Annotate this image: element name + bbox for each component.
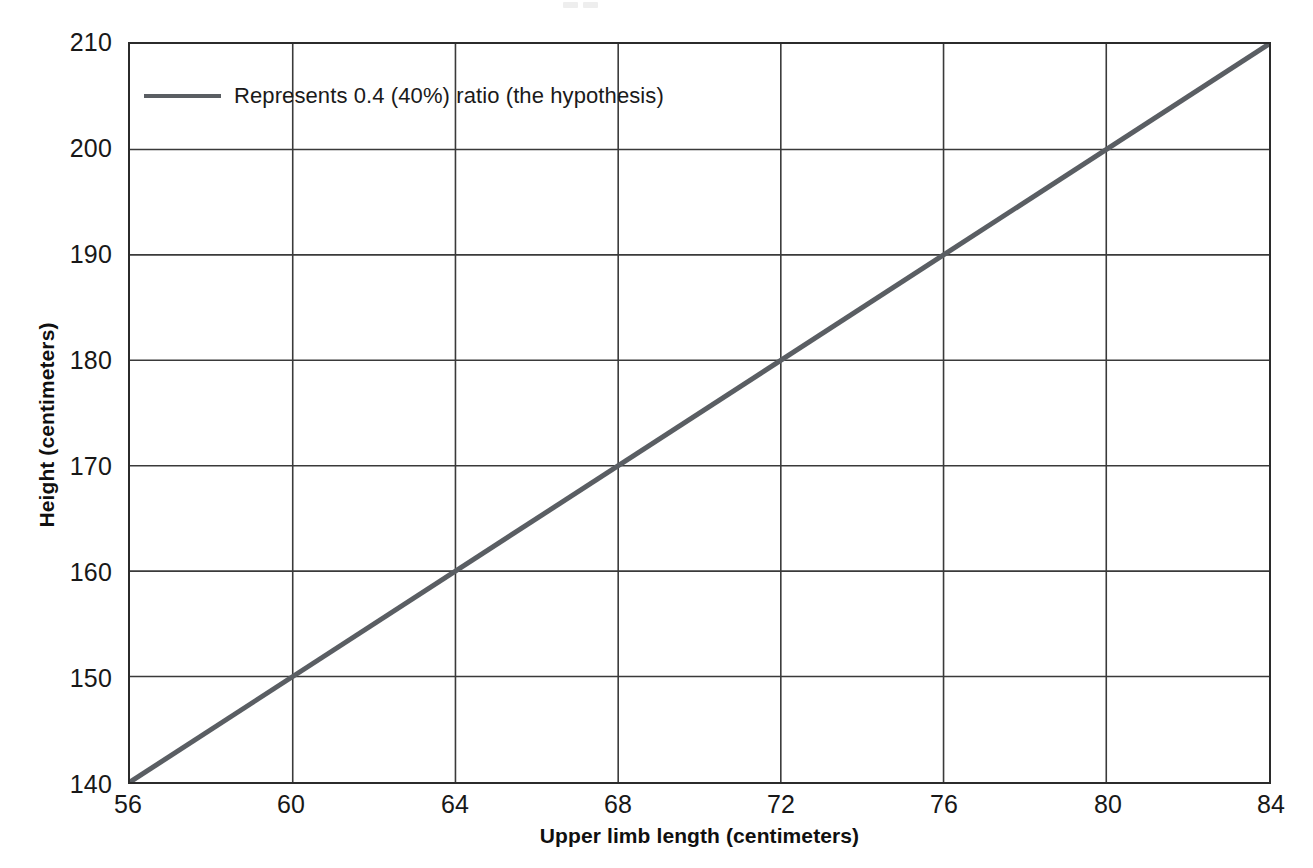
y-axis-title: Height (centimeters) bbox=[35, 295, 59, 555]
x-tick-72: 72 bbox=[767, 790, 795, 819]
x-axis-title: Upper limb length (centimeters) bbox=[128, 824, 1271, 848]
x-tick-56: 56 bbox=[114, 790, 142, 819]
x-tick-84: 84 bbox=[1257, 790, 1285, 819]
x-tick-76: 76 bbox=[930, 790, 958, 819]
x-tick-80: 80 bbox=[1094, 790, 1122, 819]
x-tick-60: 60 bbox=[277, 790, 305, 819]
x-tick-68: 68 bbox=[604, 790, 632, 819]
x-axis-tick-labels: 56 60 64 68 72 76 80 84 bbox=[0, 0, 1313, 868]
x-tick-64: 64 bbox=[441, 790, 469, 819]
chart-root: Represents 0.4 (40%) ratio (the hypothes… bbox=[0, 0, 1313, 868]
